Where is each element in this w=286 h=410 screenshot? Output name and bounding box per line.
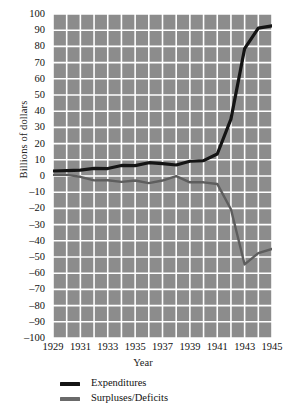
y-tick-label: 0: [0, 171, 45, 182]
y-tick-label: –30: [0, 219, 45, 230]
legend-swatch-icon: [60, 397, 80, 401]
y-tick-label: –20: [0, 203, 45, 214]
x-tick-label: 1945: [252, 340, 286, 354]
y-tick-label: –40: [0, 236, 45, 247]
y-tick-label: –60: [0, 268, 45, 279]
y-tick-label: –70: [0, 284, 45, 295]
y-tick-label: –80: [0, 300, 45, 311]
y-tick-label: 40: [0, 106, 45, 117]
legend-label: Surpluses/Deficits: [91, 393, 168, 404]
legend-item: Expenditures: [0, 376, 286, 391]
y-tick-label: 100: [0, 9, 45, 20]
y-tick-label: –10: [0, 187, 45, 198]
y-tick-label: –50: [0, 252, 45, 263]
y-tick-label: 90: [0, 25, 45, 36]
legend-label: Expenditures: [91, 378, 146, 389]
chart-legend: ExpendituresSurpluses/Deficits: [0, 376, 286, 406]
y-tick-label: 70: [0, 57, 45, 68]
x-axis-title: Year: [0, 357, 286, 368]
legend-item: Surpluses/Deficits: [0, 391, 286, 406]
y-axis-tick-labels: 1009080706050403020100–10–20–30–40–50–60…: [0, 14, 49, 338]
y-tick-label: 30: [0, 122, 45, 133]
y-tick-label: 10: [0, 155, 45, 166]
plot-area: [53, 14, 272, 338]
gridlines: [53, 14, 272, 338]
y-tick-label: 20: [0, 138, 45, 149]
y-tick-label: 50: [0, 90, 45, 101]
legend-swatch-icon: [60, 382, 80, 386]
x-axis-tick-labels: 192919311933193519371939194119431945: [53, 340, 272, 356]
y-tick-label: –90: [0, 317, 45, 328]
y-tick-label: 80: [0, 41, 45, 52]
chart-canvas: [53, 14, 272, 338]
y-tick-label: 60: [0, 74, 45, 85]
chart-figure: Billions of dollars 10090807060504030201…: [0, 0, 286, 410]
